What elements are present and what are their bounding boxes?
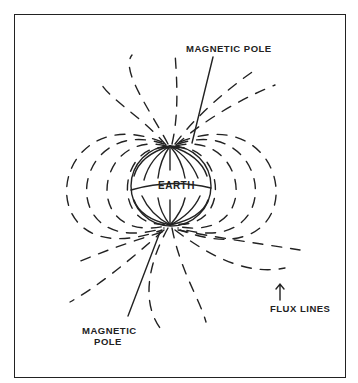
south-pole-pointer (128, 232, 160, 316)
magnetic-field-diagram (0, 0, 358, 383)
south-pole-label-line2: POLE (82, 336, 134, 347)
south-pole-label: MAGNETIC POLE (82, 325, 134, 347)
north-pole-label: MAGNETIC POLE (186, 43, 272, 54)
earth-label: EARTH (158, 180, 195, 191)
flux-arrow-icon (276, 284, 284, 300)
flux-lines-label: FLUX LINES (270, 303, 330, 314)
south-pole-label-line1: MAGNETIC (82, 325, 134, 336)
north-pole-pointer (192, 57, 213, 143)
